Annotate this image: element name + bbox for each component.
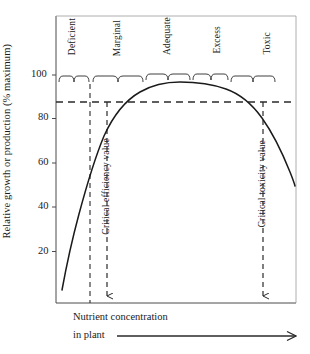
brace-deficient <box>59 76 89 82</box>
brace-adequate <box>146 74 190 80</box>
brace-toxic <box>231 76 275 82</box>
chart-plot-area <box>0 0 310 354</box>
brace-excess <box>193 74 228 80</box>
chart-figure: Relative growth or production (% maximum… <box>0 0 310 354</box>
plot-frame <box>56 16 296 303</box>
y-axis-ticks <box>52 75 56 252</box>
zone-braces <box>59 74 275 82</box>
brace-marginal <box>93 76 143 82</box>
growth-response-curve <box>62 82 295 290</box>
